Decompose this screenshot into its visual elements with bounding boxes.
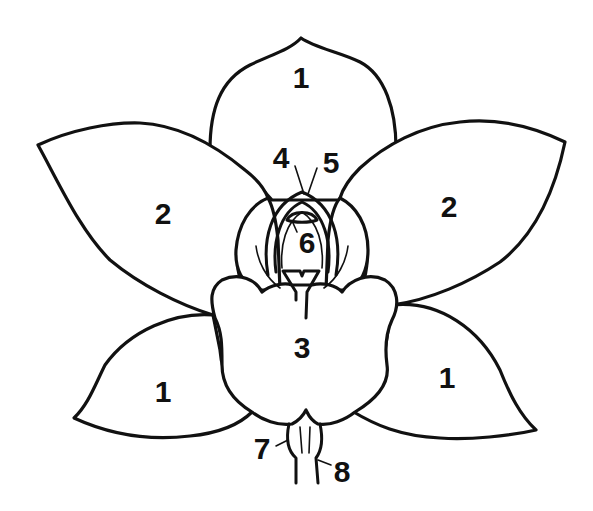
label-lip: 3	[294, 333, 311, 363]
label-part-7: 7	[254, 434, 271, 464]
anther-cap	[287, 213, 317, 223]
label-part-8: 8	[334, 457, 351, 487]
leader-line-8	[318, 460, 331, 465]
label-petal-left: 2	[155, 199, 172, 229]
label-sepal-bottom-right: 1	[439, 363, 456, 393]
label-sepal-bottom-left: 1	[155, 377, 172, 407]
label-part-6: 6	[299, 228, 316, 258]
label-part-4: 4	[273, 143, 290, 173]
ovary	[287, 424, 321, 483]
leader-line-7	[276, 440, 288, 446]
label-sepal-top: 1	[293, 63, 310, 93]
ovary-ridges	[300, 427, 310, 453]
label-petal-right: 2	[441, 192, 458, 222]
leader-line-6	[293, 223, 297, 232]
label-part-5: 5	[323, 148, 340, 178]
